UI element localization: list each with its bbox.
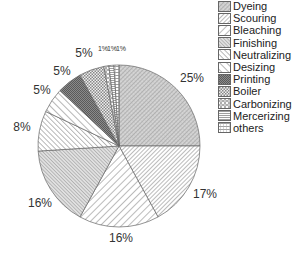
slice-label-printing: 5%	[53, 64, 71, 78]
legend-item-finishing: Finishing	[218, 37, 306, 49]
legend-item-bleaching: Bleaching	[218, 24, 306, 36]
legend-item-boiler: Boiler	[218, 85, 306, 97]
legend-label: Scouring	[233, 12, 276, 24]
legend-item-others: others	[218, 122, 306, 134]
legend-label: Boiler	[233, 85, 261, 97]
swatch-dyeing-icon	[218, 1, 231, 12]
legend-label: Finishing	[233, 37, 277, 49]
swatch-bleaching-icon	[218, 25, 231, 36]
legend-item-mercerizing: Mercerizing	[218, 110, 306, 122]
slice-label-desizing: 5%	[33, 83, 51, 97]
swatch-finishing-icon	[218, 37, 231, 48]
swatch-neutralizing-icon	[218, 49, 231, 60]
slice-label-boiler: 5%	[75, 46, 93, 60]
pie-slices	[38, 65, 200, 227]
slice-label-finishing: 16%	[28, 196, 52, 210]
legend-item-dyeing: Dyeing	[218, 0, 306, 12]
legend-label: Desizing	[233, 61, 275, 73]
swatch-printing-icon	[218, 74, 231, 85]
legend-item-desizing: Desizing	[218, 61, 306, 73]
swatch-boiler-icon	[218, 86, 231, 97]
legend-label: Printing	[233, 73, 270, 85]
swatch-others-icon	[218, 122, 231, 133]
swatch-scouring-icon	[218, 13, 231, 24]
legend-item-carbonizing: Carbonizing	[218, 98, 306, 110]
legend-label: Neutralizing	[233, 49, 291, 61]
swatch-carbonizing-icon	[218, 98, 231, 109]
slice-label-dyeing: 25%	[180, 71, 204, 85]
swatch-mercerizing-icon	[218, 110, 231, 121]
slice-label-scouring: 17%	[193, 187, 217, 201]
swatch-desizing-icon	[218, 62, 231, 73]
slice-label-bleaching: 16%	[109, 231, 133, 245]
legend-item-printing: Printing	[218, 73, 306, 85]
slice-label-others: 1%	[116, 45, 126, 52]
slice-label-neutralizing: 8%	[13, 120, 31, 134]
legend: Dyeing Scouring Bleaching Finishing Neut…	[218, 0, 306, 134]
legend-label: Mercerizing	[233, 110, 290, 122]
legend-label: Dyeing	[233, 0, 267, 12]
legend-label: Carbonizing	[233, 98, 292, 110]
legend-item-scouring: Scouring	[218, 12, 306, 24]
legend-item-neutralizing: Neutralizing	[218, 49, 306, 61]
legend-label: others	[233, 122, 264, 134]
legend-label: Bleaching	[233, 24, 281, 36]
